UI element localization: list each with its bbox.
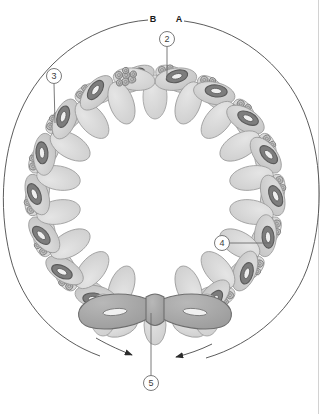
torus-hole — [39, 147, 45, 158]
ring-diagram-svg: BA 2345 — [0, 0, 328, 414]
figure-root: BA 2345 — [0, 0, 328, 414]
letter-label-a: A — [176, 14, 183, 24]
callout-number: 5 — [148, 378, 153, 388]
direction-arrow-a — [176, 344, 212, 357]
callout-number: 4 — [219, 238, 224, 248]
direction-arrow-b — [96, 338, 132, 355]
callout-number: 3 — [51, 71, 56, 81]
highlight-subunit-group — [79, 294, 232, 345]
letter-label-b: B — [150, 14, 157, 24]
torus-hole — [265, 232, 271, 243]
callout-number: 2 — [164, 34, 169, 44]
letter-label-group: BA — [150, 14, 183, 24]
highlighted-subunit — [79, 294, 232, 345]
highlight-center-knot — [146, 294, 164, 326]
